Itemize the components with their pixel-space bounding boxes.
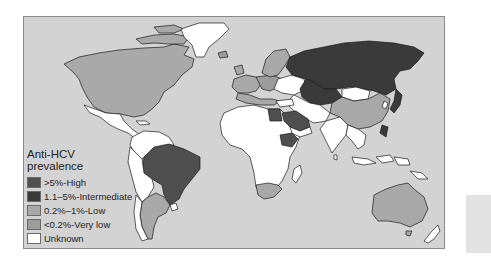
legend-swatch-high [27,177,41,188]
legend-swatch-unknown [27,233,41,244]
legend-item-very-low: <0.2%-Very low [27,217,139,231]
legend-item-low: 0.2%–1%-Low [27,203,139,217]
legend-swatch-very-low [27,219,41,230]
legend-item-unknown: Unknown [27,231,139,245]
region-japan [390,89,402,113]
region-india [320,117,348,153]
legend-title-line2: prevalence [27,160,139,172]
legend-label-very-low: <0.2%-Very low [44,219,110,230]
legend: Anti-HCV prevalence >5%-High 1.1–5%-Inte… [27,148,139,245]
legend-label-low: 0.2%–1%-Low [44,205,105,216]
region-egypt [268,109,282,121]
legend-swatch-low [27,205,41,216]
legend-item-intermediate: 1.1–5%-Intermediate [27,189,139,203]
legend-swatch-intermediate [27,191,41,202]
region-south-africa [256,183,282,199]
legend-items: >5%-High 1.1–5%-Intermediate 0.2%–1%-Low… [27,175,139,245]
legend-title-line1: Anti-HCV [27,148,139,160]
side-panel-decoration [466,195,491,253]
region-scandinavia [262,49,290,77]
legend-label-intermediate: 1.1–5%-Intermediate [44,191,132,202]
region-australia [372,183,428,227]
legend-label-unknown: Unknown [44,233,84,244]
legend-item-high: >5%-High [27,175,139,189]
region-north-america [64,44,194,117]
legend-label-high: >5%-High [44,177,86,188]
